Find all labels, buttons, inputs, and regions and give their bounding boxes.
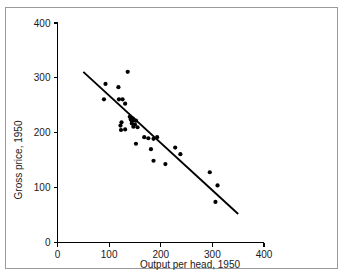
data-point [117, 97, 121, 101]
y-axis-ticks: 0100200300400 [34, 18, 58, 249]
y-tick-label: 0 [45, 237, 51, 248]
data-point [126, 70, 130, 74]
data-point [134, 142, 138, 146]
data-points-group [102, 70, 220, 204]
data-point [173, 145, 177, 149]
x-tick-label: 400 [256, 249, 273, 260]
y-tick-label: 400 [34, 18, 51, 29]
data-point [119, 128, 123, 132]
data-point [123, 102, 127, 106]
x-tick-label: 300 [204, 249, 221, 260]
data-point [102, 97, 106, 101]
data-point [151, 137, 155, 141]
x-tick-label: 200 [152, 249, 169, 260]
scatter-chart: 0100200300400 0100200300400 Output per h… [0, 0, 343, 274]
data-point [213, 200, 217, 204]
data-point [208, 170, 212, 174]
y-axis-title: Gross price, 1950 [13, 120, 24, 199]
trend-line-group [83, 72, 238, 214]
y-tick-label: 300 [34, 72, 51, 83]
regression-trend-line [83, 72, 238, 214]
data-point [118, 124, 122, 128]
data-point [123, 127, 127, 131]
x-tick-label: 0 [55, 249, 61, 260]
x-axis-ticks: 0100200300400 [55, 243, 273, 260]
y-tick-label: 200 [34, 127, 51, 138]
data-point [155, 135, 159, 139]
data-point [151, 159, 155, 163]
x-axis-title: Output per head, 1950 [140, 259, 241, 270]
data-point [215, 183, 219, 187]
x-tick-label: 100 [101, 249, 118, 260]
figure-container: 0100200300400 0100200300400 Output per h… [0, 0, 343, 274]
data-point [116, 85, 120, 89]
data-point [149, 147, 153, 151]
data-point [130, 121, 134, 125]
data-point [146, 136, 150, 140]
data-point [103, 82, 107, 86]
data-point [178, 152, 182, 156]
data-point [135, 125, 139, 129]
y-tick-label: 100 [34, 182, 51, 193]
data-point [163, 162, 167, 166]
data-point [120, 97, 124, 101]
data-point [142, 135, 146, 139]
data-point [134, 119, 138, 123]
